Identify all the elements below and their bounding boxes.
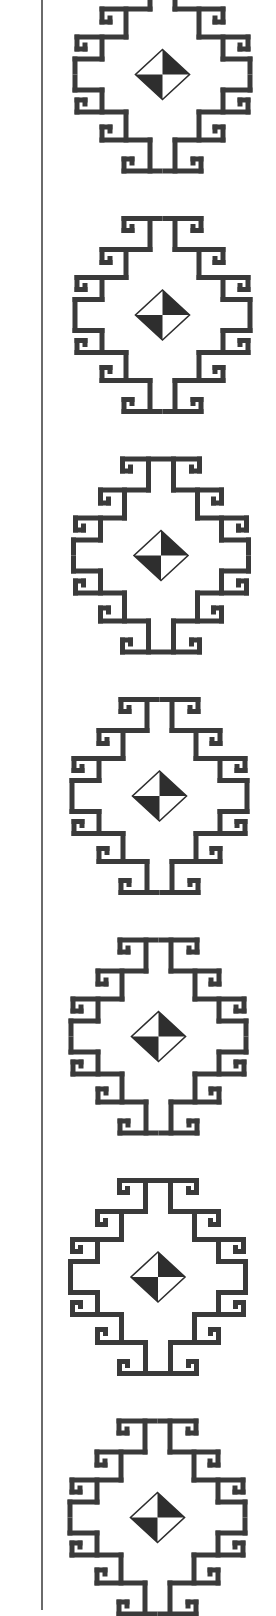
motif-column (0, 0, 276, 1616)
motif-5 (69, 938, 249, 1136)
motif-4 (70, 697, 250, 895)
border-strip (0, 0, 276, 1616)
motif-3 (71, 457, 251, 655)
motif-6 (68, 1178, 248, 1376)
motif-7 (68, 1419, 248, 1616)
motif-1 (73, 0, 253, 174)
motif-2 (73, 216, 253, 414)
